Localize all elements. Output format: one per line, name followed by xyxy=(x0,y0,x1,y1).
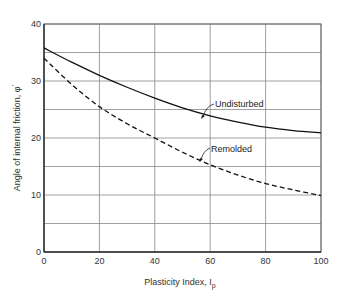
x-tick-labels: 020406080100 xyxy=(41,256,328,266)
label-remolded: Remolded xyxy=(211,144,252,154)
series-lines xyxy=(44,48,321,196)
x-tick-label: 40 xyxy=(150,256,160,266)
y-tick-label: 40 xyxy=(31,19,41,29)
y-tick-label: 20 xyxy=(31,133,41,143)
y-tick-label: 10 xyxy=(31,190,41,200)
annotation-remolded: Remolded xyxy=(199,144,252,162)
x-tick-label: 100 xyxy=(313,256,328,266)
y-tick-labels: 010203040 xyxy=(31,19,41,257)
x-tick-label: 60 xyxy=(205,256,215,266)
x-tick-label: 20 xyxy=(94,256,104,266)
x-tick-label: 80 xyxy=(261,256,271,266)
y-tick-label: 0 xyxy=(36,247,41,257)
friction-angle-chart: 020406080100 010203040 Plasticity Index,… xyxy=(0,0,341,298)
label-undisturbed: Undisturbed xyxy=(215,99,264,109)
series-remolded xyxy=(44,58,321,195)
grid xyxy=(44,24,321,252)
series-undisturbed xyxy=(44,48,321,133)
y-axis-label: Angle of internal friction, φ' xyxy=(10,84,22,191)
x-tick-label: 0 xyxy=(41,256,46,266)
y-tick-label: 30 xyxy=(31,76,41,86)
x-axis-label: Plasticity Index, Ip xyxy=(144,277,216,290)
